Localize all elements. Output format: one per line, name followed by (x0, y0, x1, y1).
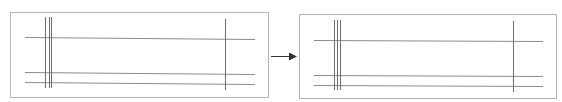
before-panel (11, 13, 269, 98)
after-panel (300, 15, 557, 99)
diagram-canvas (0, 0, 562, 102)
